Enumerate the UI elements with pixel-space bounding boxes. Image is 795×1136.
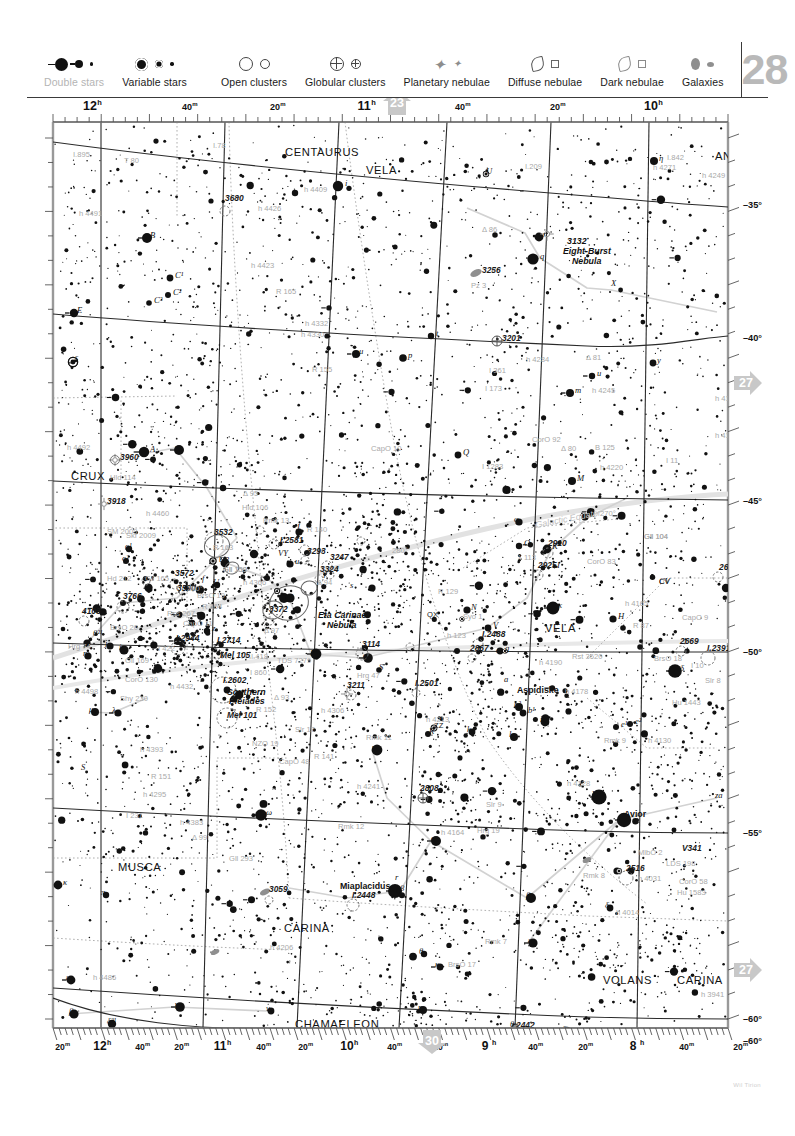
dark-nebula-large-icon [617, 56, 633, 72]
deep-sky-label: I.2944 [176, 633, 200, 643]
deep-sky-label: R 165 [276, 287, 296, 296]
constellation-label: VELA [366, 164, 397, 176]
svg-text:40: 40 [455, 102, 465, 112]
svg-text:m: m [65, 1041, 70, 1047]
planetary-nebula-symbols: ✦ ✦ [433, 51, 461, 77]
star-label: υ [372, 742, 376, 752]
deep-sky-label: I.895 [73, 150, 90, 159]
svg-text:h: h [354, 1039, 358, 1046]
deep-sky-label: Hrg 19 [477, 826, 500, 835]
deep-sky-label: Shy 230 [120, 694, 148, 703]
deep-sky-label: Δ 93 [274, 693, 289, 702]
deep-sky-label: CorO 130 [125, 675, 158, 684]
svg-text:10: 10 [644, 99, 658, 113]
variable-star-medium-icon [155, 60, 163, 68]
deep-sky-label: I.2581 [280, 535, 304, 545]
deep-sky-label: h 4188 [715, 431, 738, 440]
deep-sky-label: 2669 [679, 636, 699, 646]
chart-index-arrow-23[interactable]: 23 [382, 98, 412, 116]
deep-sky-label: h 4164 [441, 828, 464, 837]
deep-sky-label: h 4460 [146, 509, 169, 518]
star-label: η [659, 153, 663, 163]
ra-tick-label: 20m [578, 1041, 593, 1052]
star-label: C¹ [175, 270, 184, 280]
deep-sky-label: Rst 3620 [572, 652, 602, 661]
legend-bar: Double stars Variable stars Open cluster… [27, 42, 768, 98]
svg-text:20: 20 [733, 1042, 743, 1052]
deep-sky-label: 3256 [482, 265, 501, 275]
svg-text:m: m [308, 1041, 313, 1047]
star-label: c [741, 506, 745, 516]
star-label: κ [558, 600, 563, 610]
ra-tick-label: 11h [214, 1039, 232, 1053]
deep-sky-label: CapO 11 [183, 619, 213, 628]
svg-text:11: 11 [214, 1039, 227, 1053]
star-label: q [540, 251, 545, 261]
legend-item-open-clusters: Open clusters [212, 51, 296, 88]
top-ra-labels: 12h40m20m11h40m20m10h [83, 98, 663, 113]
constellation-label: VOLANS [603, 974, 652, 986]
deep-sky-label: 2516 [625, 863, 645, 873]
star-label: I [556, 560, 561, 570]
chart-number-text: 28 [742, 48, 788, 91]
deep-sky-label: 3918 [107, 496, 126, 506]
star-label: f [202, 573, 206, 583]
svg-text:m: m [280, 101, 285, 107]
deep-sky-label: CorO 58 [679, 877, 708, 886]
deep-sky-label: Hld 114 [110, 473, 136, 482]
deep-sky-label: h 4423 [251, 261, 274, 270]
legend-label-galaxies: Galaxies [682, 76, 724, 88]
star-label: ω [266, 807, 272, 817]
sky-map: I.895T 80I.78h 44913680h 4409h 4426h 442… [27, 98, 768, 1080]
galaxy-symbols [691, 51, 714, 77]
star-label: β [525, 890, 531, 900]
svg-text:20: 20 [578, 1042, 588, 1052]
deep-sky-label: Pz 3 [471, 281, 486, 290]
deep-sky-label: h 4031 [638, 874, 661, 883]
deep-sky-label: I 1283 [482, 462, 503, 471]
deep-sky-label: 270° [600, 509, 616, 518]
deep-sky-label: NZO 19 [252, 739, 279, 748]
deep-sky-label: I.78 [213, 141, 226, 150]
deep-sky-label: Rmk 9 [604, 736, 626, 745]
deep-sky-label: I.842 [667, 153, 684, 162]
deep-sky-label: h 3941 [701, 990, 724, 999]
deep-sky-label: 2925 [537, 560, 557, 570]
star-label: N [470, 602, 478, 612]
deep-sky-label: Δ 95 [243, 489, 258, 498]
deep-sky-label: h 4409 [304, 185, 327, 194]
double-star-symbols [55, 51, 94, 77]
deep-sky-label: QX [427, 610, 438, 619]
deep-sky-label: h 4178 [565, 687, 588, 696]
deep-sky-label: R 151 [151, 772, 171, 781]
deep-sky-label: h 4206 [270, 943, 293, 952]
legend-item-galaxies: Galaxies [673, 51, 733, 88]
deep-sky-label: ER [219, 555, 230, 564]
deep-sky-label: I 11 [666, 456, 678, 465]
legend-item-diffuse-nebulae: Diffuse nebulae [499, 51, 591, 88]
star-label: φ [514, 514, 519, 524]
deep-sky-label: Rmk 11 [366, 733, 392, 742]
deep-sky-label: Δ 77 [754, 396, 768, 405]
ra-tick-label: 40m [182, 101, 198, 112]
deep-sky-label: 4103 [81, 606, 101, 616]
chart-index-arrow-23-label: 23 [390, 98, 404, 110]
deep-sky-label: Δ 86 [482, 225, 497, 234]
deep-sky-label: R 155 [312, 365, 332, 374]
star-label: z [211, 623, 216, 633]
chart-index-arrow-30[interactable]: 30 [417, 1029, 447, 1055]
deep-sky-label: Rmk 7 [485, 937, 507, 946]
deep-sky-label: V341 [682, 843, 702, 853]
deep-sky-label: h 4284 [526, 355, 549, 364]
chart-index-arrow-27-upper[interactable]: 27 [733, 370, 763, 396]
svg-text:40: 40 [182, 102, 192, 112]
deep-sky-label: 3372 [269, 604, 288, 614]
deep-sky-label: CorO 92 [532, 435, 561, 444]
star-label: β [68, 1006, 74, 1016]
star-label: O [524, 538, 530, 548]
deep-sky-label: R 129 [438, 587, 458, 596]
svg-text:h: h [97, 98, 102, 107]
chart-index-arrow-27-lower[interactable]: 27 [733, 957, 763, 983]
svg-text:m: m [145, 1041, 150, 1047]
deep-sky-label: R 140 [307, 525, 327, 534]
